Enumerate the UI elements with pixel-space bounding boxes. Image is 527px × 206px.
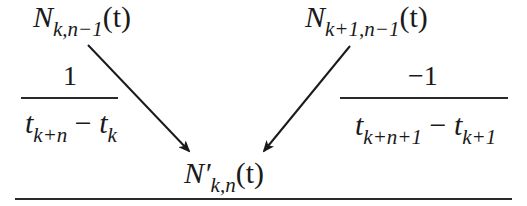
left-fraction-bar [21, 97, 118, 99]
node-argument: (t) [399, 0, 427, 33]
denominator-term: t [99, 106, 107, 139]
node-top-left: Nk,n−1(t) [33, 2, 131, 32]
bottom-rule [15, 198, 512, 200]
left-weight-denominator: tk+n − tk [25, 108, 117, 138]
node-subscript: k,n−1 [53, 17, 103, 41]
node-argument: (t) [103, 0, 131, 33]
left-weight-numerator: 1 [63, 62, 77, 90]
minus-operator: − [430, 108, 447, 141]
denominator-subscript: k+n [33, 123, 67, 147]
denominator-subscript: k+n+1 [363, 125, 422, 149]
minus-operator: − [75, 106, 92, 139]
right-fraction-bar [340, 97, 508, 99]
node-bottom: N′k,n(t) [184, 158, 264, 188]
node-symbol: N [305, 0, 325, 33]
node-symbol: N [33, 0, 53, 33]
node-subscript: k,n [211, 173, 236, 197]
node-argument: (t) [236, 156, 264, 189]
node-symbol: N′ [184, 156, 211, 189]
right-weight-denominator: tk+n+1 − tk+1 [355, 110, 496, 140]
arrow-right-to-bottom [264, 46, 350, 151]
right-weight-numerator: −1 [408, 62, 438, 90]
node-subscript: k+1,n−1 [325, 17, 399, 41]
denominator-subscript: k [108, 123, 117, 147]
node-top-right: Nk+1,n−1(t) [305, 2, 428, 32]
denominator-subscript: k+1 [462, 125, 496, 149]
